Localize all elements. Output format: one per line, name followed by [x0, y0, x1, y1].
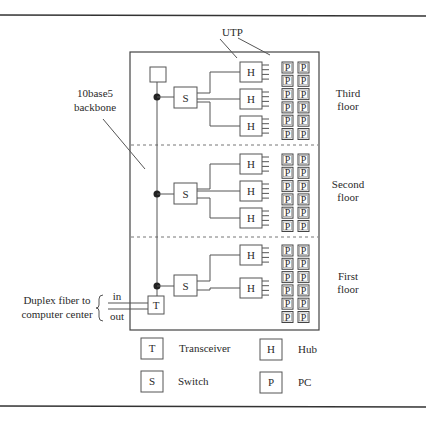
top-rule [0, 15, 426, 16]
floor-2-pc-symbol: P [301, 207, 307, 218]
floor-1-pc-symbol: P [301, 89, 307, 100]
legend: T Transceiver H Hub S Switch P PC [141, 338, 317, 393]
floor-3-pc-symbol: P [301, 272, 307, 283]
floor-1-pc-symbol: P [301, 75, 307, 86]
floor-2-hub-cable [197, 164, 240, 189]
floor-2-hub-symbol: H [247, 158, 255, 170]
legend-pc-text: PC [298, 376, 311, 388]
floor-3-switch-symbol: S [182, 280, 188, 292]
floor-2-pc-symbol: P [285, 221, 291, 232]
floor-2-pc-symbol: P [285, 194, 291, 205]
transceiver-symbol: T [153, 299, 160, 311]
legend-pc-symbol: P [268, 376, 274, 388]
floor-2-pc-symbol: P [301, 194, 307, 205]
floors-group: SHHHPPPPPPPPPPPPThirdfloorSHHHPPPPPPPPPP… [154, 62, 365, 323]
fiber-brace [96, 295, 103, 321]
floor-1-pc-symbol: P [285, 115, 291, 126]
floor-2-pc-symbol: P [301, 181, 307, 192]
floor-1-hub-symbol: H [247, 120, 255, 132]
legend-transceiver-text: Transceiver [179, 342, 231, 354]
floor-2-hub-symbol: H [247, 185, 255, 197]
floor-2-pc-symbol: P [285, 167, 291, 178]
floor-1-pc-symbol: P [301, 102, 307, 113]
floor-2-switch-symbol: S [182, 188, 188, 200]
floor-1-hub-symbol: H [247, 66, 255, 78]
legend-transceiver-symbol: T [149, 342, 156, 354]
floor-3-pc-symbol: P [301, 245, 307, 256]
utp-pointer-1 [220, 39, 237, 58]
legend-hub-text: Hub [298, 343, 317, 355]
floor-3-label-2: floor [337, 283, 359, 295]
floor-3-pc-symbol: P [301, 258, 307, 269]
floor-1-label-1: Third [336, 87, 361, 99]
network-diagram: UTP 10base5 backbone SHHHPPPPPPPPPPPPThi… [0, 0, 426, 421]
floor-3-hub-cable [197, 288, 240, 290]
floor-1-pc-symbol: P [301, 62, 307, 73]
floor-2-pc-symbol: P [285, 207, 291, 218]
floor-1-pc-symbol: P [301, 115, 307, 126]
floor-3-pc-symbol: P [301, 285, 307, 296]
floor-2-pc-symbol: P [285, 154, 291, 165]
backbone-label-2: backbone [74, 101, 116, 113]
floor-1-pc-symbol: P [285, 102, 291, 113]
fiber-in-label: in [113, 290, 122, 302]
fiber-label-1: Duplex fiber to [23, 294, 91, 306]
backbone-pointer [103, 119, 145, 169]
floor-1-pc-symbol: P [285, 75, 291, 86]
floor-3-hub-cable [197, 255, 240, 281]
floor-3-pc-symbol: P [285, 272, 291, 283]
floor-1-pc-symbol: P [301, 129, 307, 140]
fiber-out-label: out [110, 310, 124, 322]
floor-2-pc-symbol: P [285, 181, 291, 192]
terminator-box [150, 67, 166, 82]
floor-2-pc-symbol: P [301, 154, 307, 165]
floor-1-pc-symbol: P [285, 129, 291, 140]
floor-2-pc-symbol: P [301, 167, 307, 178]
floor-3-pc-symbol: P [285, 258, 291, 269]
floor-1-pc-symbol: P [285, 62, 291, 73]
floor-1-hub-cable [197, 102, 240, 126]
floor-2-pc-symbol: P [301, 221, 307, 232]
bottom-rule [0, 406, 426, 407]
legend-hub-symbol: H [267, 343, 275, 355]
floor-1-switch-symbol: S [182, 92, 188, 104]
floor-1-hub-symbol: H [247, 93, 255, 105]
floor-1-label-2: floor [337, 100, 359, 112]
floor-3-hub-symbol: H [247, 249, 255, 261]
legend-switch-symbol: S [149, 375, 155, 387]
fiber-label-2: computer center [21, 308, 92, 320]
floor-3-label-1: First [338, 270, 358, 282]
utp-label: UTP [222, 26, 243, 38]
legend-switch-text: Switch [178, 375, 209, 387]
floor-3-pc-symbol: P [285, 285, 291, 296]
floor-2-label-1: Second [332, 178, 365, 190]
floor-1-hub-cable [197, 72, 240, 93]
floor-3-pc-symbol: P [301, 312, 307, 323]
floor-2-hub-cable [197, 198, 240, 218]
floor-3-pc-symbol: P [285, 312, 291, 323]
backbone-label-1: 10base5 [77, 87, 114, 99]
floor-2-label-2: floor [337, 191, 359, 203]
floor-3-pc-symbol: P [285, 298, 291, 309]
floor-3-pc-symbol: P [285, 245, 291, 256]
floor-3-hub-symbol: H [247, 282, 255, 294]
floor-1-pc-symbol: P [285, 89, 291, 100]
floor-2-hub-symbol: H [247, 212, 255, 224]
floor-3-pc-symbol: P [301, 298, 307, 309]
